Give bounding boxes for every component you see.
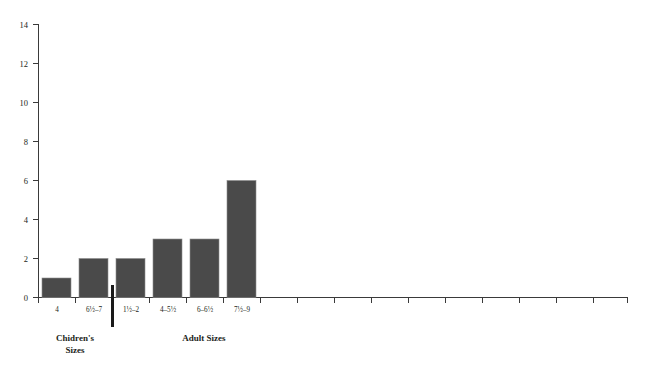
y-tick-label: 12 <box>20 59 29 69</box>
y-tick-label: 8 <box>24 137 28 147</box>
histogram-chart: 14 12 10 8 6 4 2 0 <box>0 0 645 375</box>
x-tick-label: 6–6½ <box>197 306 214 314</box>
children-sizes-label-line1: Chidren's <box>56 333 94 343</box>
bar <box>42 278 71 298</box>
y-tick-label: 6 <box>24 176 28 186</box>
y-tick-label: 2 <box>24 254 28 264</box>
y-tick-label: 14 <box>20 20 29 30</box>
chart-background <box>0 0 645 375</box>
x-tick-label: 1½–2 <box>123 306 140 314</box>
chart-canvas: 14 12 10 8 6 4 2 0 <box>0 0 645 375</box>
y-tick-label: 10 <box>20 98 29 108</box>
x-tick-label: 7½–9 <box>234 306 251 314</box>
bar <box>227 181 256 298</box>
bar <box>116 259 145 298</box>
x-tick-label: 6½–7 <box>86 306 103 314</box>
x-tick-label: 4–5½ <box>160 306 177 314</box>
y-tick-label: 0 <box>24 293 28 303</box>
bar <box>79 259 108 298</box>
bar <box>190 239 219 298</box>
bar <box>153 239 182 298</box>
children-sizes-label-line2: Sizes <box>66 345 85 355</box>
adult-sizes-label: Adult Sizes <box>182 333 226 343</box>
x-tick-label: 4 <box>55 306 59 314</box>
